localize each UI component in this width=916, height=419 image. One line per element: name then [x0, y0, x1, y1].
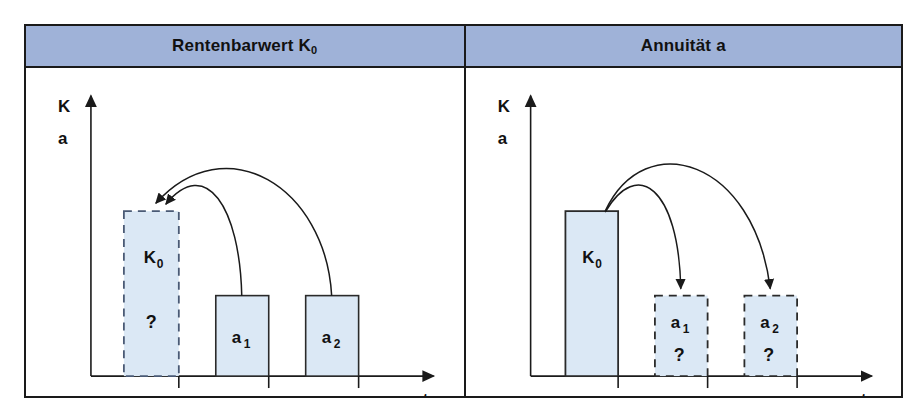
bar-a1-label-right: a — [670, 313, 680, 332]
x-axis-label-left: t — [423, 390, 428, 396]
panel-header-annuitaet: Annuität a — [466, 26, 902, 68]
x-axis-label-right: t — [861, 391, 866, 396]
tick-label-t2-left: t — [352, 392, 357, 396]
bar-K0-label-left: K — [144, 248, 157, 267]
bar-a1-label-sub-left: 1 — [244, 337, 251, 351]
bar-a1-label-left: a — [232, 328, 242, 347]
panel-title-annuitaet: Annuität a — [641, 36, 726, 56]
panel-title-main-left: Rentenbarwert K — [172, 36, 311, 55]
bar-a2-unknown-right: ? — [763, 345, 774, 365]
bar-K0-right — [565, 211, 618, 376]
y-axis-label-K-right: K — [497, 97, 510, 116]
plot-area-rentenbarwert: K a t K 0 ? a 1 a 2 — [26, 68, 464, 396]
arrow-K0-to-a2-right — [605, 164, 770, 289]
tick-label-t2-right: t — [790, 393, 795, 396]
tick-label-t0-right: t — [611, 393, 616, 396]
y-axis-label-a-right: a — [497, 129, 507, 148]
panel-rentenbarwert: Rentenbarwert K0 — [26, 26, 464, 396]
panel-header-rentenbarwert: Rentenbarwert K0 — [26, 26, 464, 68]
y-axis-label-K-left: K — [58, 97, 71, 116]
bar-K0-left — [124, 211, 179, 376]
bar-K0-label-right: K — [582, 248, 595, 267]
bar-a2-label-sub-right: 2 — [772, 322, 779, 336]
bar-a2-label-left: a — [322, 328, 332, 347]
plot-svg-rentenbarwert: K a t K 0 ? a 1 a 2 — [26, 68, 464, 396]
bar-a1-label-sub-right: 1 — [682, 322, 689, 336]
bar-K0-label-sub-right: 0 — [595, 257, 602, 271]
panel-title-rentenbarwert: Rentenbarwert K0 — [172, 36, 317, 56]
tick-label-t1-right: t — [700, 393, 705, 396]
panel-annuitaet: Annuität a — [464, 26, 902, 396]
bar-a2-left — [306, 296, 359, 377]
bar-a2-label-right: a — [760, 313, 770, 332]
arrow-a2-to-K0-left — [156, 168, 332, 295]
bar-K0-unknown-left: ? — [146, 312, 157, 332]
bar-a1-unknown-right: ? — [673, 345, 684, 365]
plot-svg-annuitaet: K a t K 0 a 1 ? a 2 — [466, 68, 902, 396]
tick-label-t1-left: t — [262, 392, 267, 396]
panel-title-main-right: Annuität a — [641, 36, 726, 55]
panel-title-sub-left: 0 — [311, 44, 317, 56]
bar-a2-label-sub-left: 2 — [334, 337, 341, 351]
bar-a1-left — [216, 296, 269, 377]
y-axis-label-a-left: a — [58, 129, 68, 148]
diagram-frame: Rentenbarwert K0 — [24, 24, 903, 398]
tick-label-t0-left: t — [172, 392, 177, 396]
diagram-figure: Rentenbarwert K0 — [0, 0, 916, 419]
bar-K0-label-sub-left: 0 — [157, 257, 164, 271]
plot-area-annuitaet: K a t K 0 a 1 ? a 2 — [466, 68, 902, 396]
